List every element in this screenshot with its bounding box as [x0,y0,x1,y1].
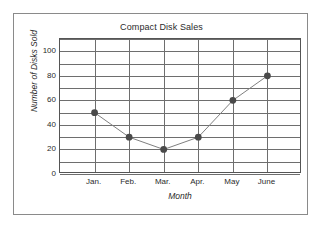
y-axis-tick-label: 20 [30,144,56,153]
data-series [60,39,302,174]
x-axis-label: Month [59,191,301,201]
chart-figure: Compact Disk Sales Number of Disks Sold … [13,13,308,215]
chart-title: Compact Disk Sales [14,22,309,32]
data-point-marker [160,146,167,153]
y-axis-tick-label: 40 [30,119,56,128]
y-axis-tick-label: 100 [30,46,56,55]
data-point-marker [195,134,202,141]
x-axis-tick-label: June [246,177,286,186]
gridline-horizontal [60,174,300,175]
series-line [95,76,268,150]
y-axis-tick-label: 0 [30,169,56,178]
y-axis-tick-label: 60 [30,95,56,104]
y-axis-tick-label: 80 [30,70,56,79]
data-point-marker [91,109,98,116]
data-point-marker [126,134,133,141]
y-axis-tick-labels: 020406080100 [26,38,56,173]
x-axis-tick-labels: Jan.Feb.Mar.Apr.MayJune [59,177,301,189]
data-point-marker [229,97,236,104]
data-point-marker [264,72,271,79]
plot-area [59,38,301,173]
